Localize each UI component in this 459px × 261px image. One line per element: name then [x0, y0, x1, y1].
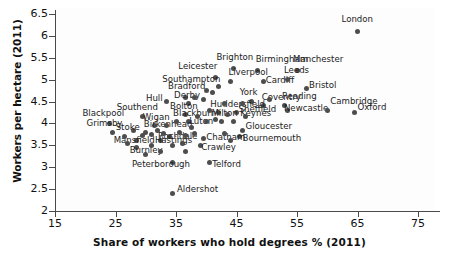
x-tick-label: 65 [338, 218, 378, 230]
data-point[interactable] [180, 141, 185, 146]
data-point-label: Milton Keynes [211, 109, 271, 118]
data-point-label: Cardiff [266, 76, 294, 85]
y-tick [49, 36, 55, 37]
y-tick [49, 189, 55, 190]
data-point-label: Leeds [284, 66, 309, 75]
y-tick-label: 3 [0, 161, 48, 172]
data-point-label: Gloucester [246, 122, 292, 131]
y-tick [49, 145, 55, 146]
data-point-label: Leicester [178, 62, 217, 71]
y-tick-label: 2.5 [0, 183, 48, 194]
y-tick-label: 2 [0, 205, 48, 216]
data-point-label: London [342, 15, 374, 24]
y-tick-label: 6.5 [0, 8, 48, 19]
x-tick-label: 75 [398, 218, 438, 230]
data-point[interactable] [207, 108, 212, 113]
data-point[interactable] [204, 119, 209, 124]
data-point-london[interactable] [355, 29, 360, 34]
x-tick-label: 35 [156, 218, 196, 230]
data-point-label: Liverpool [228, 68, 267, 77]
y-tick [49, 80, 55, 81]
data-point-label: Telford [212, 160, 241, 169]
data-point[interactable] [177, 130, 182, 135]
y-tick-label: 4 [0, 117, 48, 128]
y-axis-title: Workers per hectare (2011) [11, 6, 23, 196]
y-tick [49, 123, 55, 124]
data-point-cambridge[interactable] [325, 108, 330, 113]
x-tick-label: 55 [277, 218, 317, 230]
data-point-label: Bournemouth [243, 134, 302, 143]
y-tick-label: 6 [0, 30, 48, 41]
y-tick-label: 3.5 [0, 139, 48, 150]
data-point[interactable] [174, 119, 179, 124]
data-point-label: Stoke [116, 123, 140, 132]
data-point-oxford[interactable] [352, 110, 357, 115]
data-point-label: Brighton [216, 53, 253, 62]
data-point-luton[interactable] [189, 125, 194, 130]
data-point-label: York [240, 88, 258, 97]
data-point-label: Oxford [357, 103, 386, 112]
data-point[interactable] [143, 152, 148, 157]
data-point-chatham[interactable] [201, 136, 206, 141]
data-point-label: Reading [282, 92, 317, 101]
y-tick [49, 14, 55, 15]
data-point-label: Aldershot [177, 185, 218, 194]
x-tick-label: 25 [96, 218, 136, 230]
x-axis-line [55, 211, 440, 212]
data-point-label: Manchester [293, 55, 343, 64]
data-point-label: Peterborough [132, 160, 190, 169]
y-tick-label: 5 [0, 74, 48, 85]
data-point[interactable] [213, 117, 218, 122]
data-point[interactable] [183, 133, 188, 138]
data-point-label: Bristol [309, 81, 336, 90]
data-point[interactable] [192, 131, 197, 136]
y-tick [49, 167, 55, 168]
data-point[interactable] [231, 119, 236, 124]
x-tick-label: 45 [217, 218, 257, 230]
y-tick [49, 58, 55, 59]
x-tick-label: 15 [35, 218, 75, 230]
y-tick-label: 4.5 [0, 96, 48, 107]
data-point-label: Crawley [201, 143, 236, 152]
y-tick-label: 5.5 [0, 52, 48, 63]
data-point[interactable] [125, 141, 130, 146]
x-axis-title: Share of workers who hold degrees % (201… [0, 236, 459, 248]
data-point[interactable] [201, 97, 206, 102]
data-point-label: Luton [189, 117, 213, 126]
data-point[interactable] [216, 84, 221, 89]
data-point-milton-keynes[interactable] [219, 119, 224, 124]
y-tick [49, 102, 55, 103]
scatter-chart: 6.565.554.543.532.52 15253545556575 Shar… [0, 0, 459, 261]
data-point-label: Blackpool [82, 109, 124, 118]
data-point[interactable] [192, 95, 197, 100]
data-point-label: Newcastle [284, 104, 328, 113]
y-axis-line [55, 10, 56, 211]
data-point-grimsby[interactable] [110, 130, 115, 135]
data-point[interactable] [222, 131, 227, 136]
